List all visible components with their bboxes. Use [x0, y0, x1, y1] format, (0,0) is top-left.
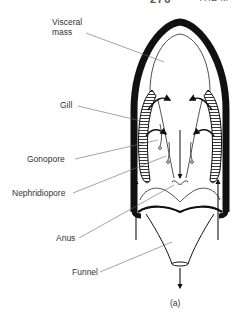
label-funnel: Funnel: [72, 267, 98, 277]
mantle-cavity-floor: [138, 188, 222, 212]
label-gonopore: Gonopore: [27, 154, 65, 164]
leader-lines: [73, 33, 174, 272]
funnel: [146, 214, 214, 266]
label-anus: Anus: [56, 233, 75, 243]
label-visceral-mass-line1: Visceral: [52, 17, 82, 27]
label-nephridiopore: Nephridiopore: [12, 188, 65, 198]
label-visceral-mass: Visceral mass: [52, 17, 82, 37]
gonopore: [159, 124, 162, 149]
label-visceral-mass-line2: mass: [52, 27, 82, 37]
anus-arrow: [172, 130, 188, 184]
label-gill: Gill: [60, 100, 72, 110]
figure-caption: (a): [170, 298, 180, 308]
